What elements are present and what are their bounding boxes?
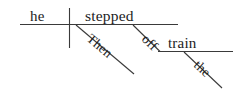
word-adverb-then: Then [84,31,116,61]
diagram-canvas-svg: he stepped Then off train the [0,0,233,90]
word-verb-stepped: stepped [85,7,134,24]
word-subject-he: he [30,8,45,24]
word-object-train: train [168,35,197,51]
sentence-diagram: he stepped Then off train the [0,0,233,90]
